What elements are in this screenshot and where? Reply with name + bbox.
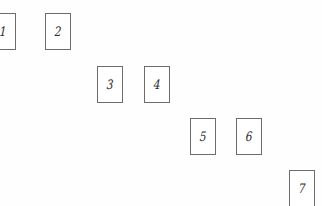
box-1-label: 1 xyxy=(0,25,7,38)
box-2-label: 2 xyxy=(54,25,61,38)
box-5[interactable]: 5 xyxy=(190,118,216,155)
box-7[interactable]: 7 xyxy=(289,170,315,206)
box-6[interactable]: 6 xyxy=(236,118,262,155)
diagram-canvas: 1234567 xyxy=(0,0,322,206)
box-3-label: 3 xyxy=(106,78,113,91)
box-5-label: 5 xyxy=(199,130,206,143)
box-7-label: 7 xyxy=(298,182,305,195)
box-4[interactable]: 4 xyxy=(144,66,170,103)
box-4-label: 4 xyxy=(153,78,160,91)
box-6-label: 6 xyxy=(245,130,252,143)
box-3[interactable]: 3 xyxy=(97,66,123,103)
box-1[interactable]: 1 xyxy=(0,13,16,50)
box-2[interactable]: 2 xyxy=(45,13,71,50)
